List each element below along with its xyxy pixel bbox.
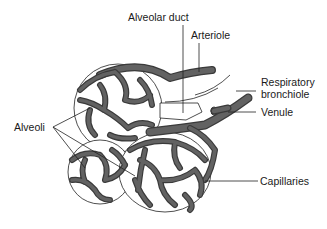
label-respiratory-bronchiole-line2: bronchiole	[261, 89, 309, 100]
label-venule: Venule	[261, 107, 293, 118]
label-capillaries: Capillaries	[260, 176, 309, 187]
label-alveolar-duct: Alveolar duct	[128, 12, 189, 23]
alveoli-diagram: Alveolar duct Arteriole Respiratory bron…	[0, 0, 327, 229]
label-arteriole: Arteriole	[191, 30, 230, 41]
label-alveoli: Alveoli	[14, 122, 45, 133]
label-respiratory-bronchiole-line1: Respiratory	[261, 77, 315, 88]
